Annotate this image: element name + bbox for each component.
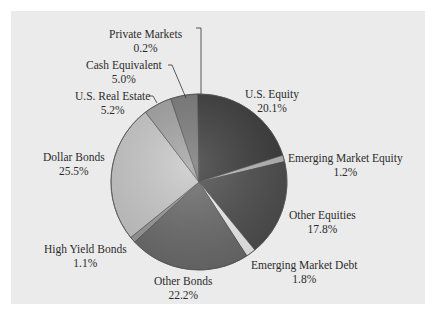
label-dollar-bonds: Dollar Bonds 25.5%: [43, 150, 105, 178]
label-us-real-estate: U.S. Real Estate 5.2%: [75, 89, 150, 117]
label-em-equity: Emerging Market Equity 1.2%: [288, 151, 403, 179]
label-high-yield-bonds: High Yield Bonds 1.1%: [44, 242, 127, 270]
pie-outline: [111, 94, 287, 270]
label-private-markets: Private Markets 0.2%: [109, 27, 182, 55]
label-other-equities: Other Equities 17.8%: [289, 208, 356, 236]
label-other-bonds: Other Bonds 22.2%: [154, 274, 212, 302]
label-em-debt: Emerging Market Debt 1.8%: [251, 258, 357, 286]
label-us-equity: U.S. Equity 20.1%: [245, 87, 299, 115]
leader-cash-equivalent: [168, 65, 186, 98]
leader-private-markets: [196, 28, 201, 94]
label-cash-equivalent: Cash Equivalent 5.0%: [86, 58, 162, 86]
